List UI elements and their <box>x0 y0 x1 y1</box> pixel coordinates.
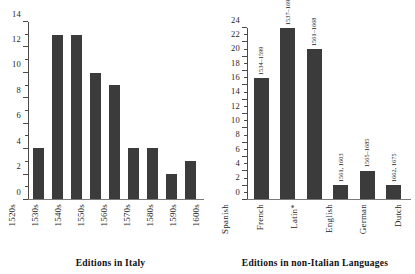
y-tick-major-nonitalian-20 <box>242 56 247 57</box>
y-tick-major-nonitalian-12 <box>242 113 247 114</box>
bar-1550s <box>90 73 101 199</box>
bar-date-annotation: 1537–1690 <box>285 0 291 25</box>
y-tick-major-nonitalian-16 <box>242 84 247 85</box>
y-tick-label-italy-4: 4 <box>17 136 21 145</box>
caption-non-italian: Editions in non-Italian Languages <box>207 258 415 268</box>
bar-slot: 1561, 1603 <box>328 28 355 199</box>
x-tick-label-1600s: 1600s <box>191 204 200 227</box>
bar-date-annotation: 1662, 1675 <box>391 153 397 182</box>
x-category-labels-italy: 1520s1530s1540s1550s1560s1570s1580s1590s… <box>1 202 207 246</box>
y-tick-label-italy-12: 12 <box>12 35 21 44</box>
y-tick-label-nonitalian-14: 14 <box>231 87 240 96</box>
y-tick-minor-nonitalian-21 <box>244 49 247 50</box>
x-tick-label-latin-: Latin* <box>290 204 299 229</box>
bar-english: 1561, 1603 <box>333 185 348 199</box>
category-slot: 1550s <box>70 202 93 246</box>
figure-two-bar-charts: 02468101214 1520s1530s1540s1550s1560s157… <box>0 0 415 274</box>
y-tick-minor-nonitalian-13 <box>244 106 247 107</box>
y-tick-minor-nonitalian-11 <box>244 120 247 121</box>
bar-dutch: 1662, 1675 <box>386 185 401 199</box>
y-tick-minor-nonitalian-23 <box>244 34 247 35</box>
bar-german: 1565–1685 <box>360 171 375 200</box>
y-tick-label-nonitalian-16: 16 <box>231 73 240 82</box>
category-slot: Dutch <box>381 202 415 246</box>
y-tick-minor-italy-7 <box>25 110 28 111</box>
bar-spanish: 1534–1599 <box>254 78 269 199</box>
x-tick-label-german: German <box>359 204 368 234</box>
bar-slot <box>86 22 105 199</box>
bar-1570s <box>128 148 139 199</box>
bar-1530s <box>52 35 63 199</box>
x-tick-label-dutch: Dutch <box>393 204 402 227</box>
bar-1520s <box>33 148 44 199</box>
x-tick-label-1590s: 1590s <box>168 204 177 227</box>
x-category-labels-non-italian: SpanishFrenchLatin*EnglishGermanDutch <box>208 202 415 246</box>
bar-slot <box>162 22 181 199</box>
bar-group-non-italian: 1534–15991537–16901561–16681561, 1603156… <box>248 28 407 199</box>
bar-slot: 1662, 1675 <box>381 28 408 199</box>
y-tick-label-nonitalian-24: 24 <box>231 15 240 24</box>
bar-1590s <box>166 174 177 199</box>
y-tick-label-italy-8: 8 <box>17 86 21 95</box>
y-tick-minor-nonitalian-7 <box>244 149 247 150</box>
y-tick-label-nonitalian-20: 20 <box>231 44 240 53</box>
bar-slot <box>124 22 143 199</box>
y-tick-minor-nonitalian-1 <box>244 192 247 193</box>
y-tick-minor-italy-9 <box>25 85 28 86</box>
panel-editions-in-italy: 02468101214 1520s1530s1540s1550s1560s157… <box>0 0 207 274</box>
bar-slot: 1537–1690 <box>275 28 302 199</box>
y-tick-major-italy-12 <box>23 46 28 47</box>
y-tick-minor-italy-5 <box>25 135 28 136</box>
panel-editions-non-italian: 024681012141618202224 1534–15991537–1690… <box>207 0 415 274</box>
y-tick-label-nonitalian-18: 18 <box>231 58 240 67</box>
x-tick-label-1570s: 1570s <box>122 204 131 227</box>
y-tick-label-italy-6: 6 <box>17 111 21 120</box>
bar-slot <box>143 22 162 199</box>
y-tick-label-nonitalian-2: 2 <box>236 173 240 182</box>
y-tick-minor-nonitalian-15 <box>244 92 247 93</box>
bar-slot: 1561–1668 <box>301 28 328 199</box>
y-tick-label-italy-0: 0 <box>17 187 21 196</box>
y-tick-label-italy-14: 14 <box>12 9 21 18</box>
y-tick-minor-nonitalian-5 <box>244 163 247 164</box>
y-tick-minor-nonitalian-3 <box>244 178 247 179</box>
x-axis-italy <box>28 199 204 200</box>
plot-area-italy: 02468101214 <box>28 22 200 200</box>
category-slot: French <box>243 202 278 246</box>
category-slot: 1580s <box>138 202 161 246</box>
plot-area-non-italian: 024681012141618202224 1534–15991537–1690… <box>247 28 407 200</box>
y-tick-major-italy-4 <box>23 148 28 149</box>
y-tick-major-italy-0 <box>23 199 28 200</box>
x-axis-non-italian <box>247 199 411 200</box>
y-tick-major-nonitalian-6 <box>242 156 247 157</box>
y-tick-major-italy-8 <box>23 97 28 98</box>
bar-french: 1537–1690 <box>280 28 295 199</box>
category-slot: English <box>312 202 347 246</box>
bar-1580s <box>147 148 158 199</box>
category-slot: 1570s <box>115 202 138 246</box>
y-tick-major-nonitalian-24 <box>242 27 247 28</box>
x-tick-label-spanish: Spanish <box>221 204 230 234</box>
bar-date-annotation: 1561, 1603 <box>338 153 344 182</box>
category-slot: 1600s <box>184 202 207 246</box>
bar-1600s <box>185 161 196 199</box>
y-tick-label-nonitalian-4: 4 <box>236 159 240 168</box>
caption-italy: Editions in Italy <box>0 258 207 268</box>
category-slot: 1540s <box>47 202 70 246</box>
bar-slot <box>48 22 67 199</box>
bar-group-italy <box>29 22 200 199</box>
y-tick-label-italy-2: 2 <box>17 162 21 171</box>
x-tick-label-french: French <box>255 204 264 230</box>
category-slot: Latin* <box>277 202 312 246</box>
y-tick-major-nonitalian-18 <box>242 70 247 71</box>
bar-latin-: 1561–1668 <box>307 49 322 199</box>
y-tick-minor-nonitalian-9 <box>244 135 247 136</box>
category-slot: Spanish <box>208 202 243 246</box>
y-tick-minor-italy-11 <box>25 59 28 60</box>
y-tick-major-italy-2 <box>23 174 28 175</box>
bar-date-annotation: 1534–1599 <box>258 46 264 75</box>
y-tick-minor-italy-3 <box>25 161 28 162</box>
y-tick-major-nonitalian-2 <box>242 185 247 186</box>
bar-slot: 1534–1599 <box>248 28 275 199</box>
y-tick-minor-italy-1 <box>25 186 28 187</box>
